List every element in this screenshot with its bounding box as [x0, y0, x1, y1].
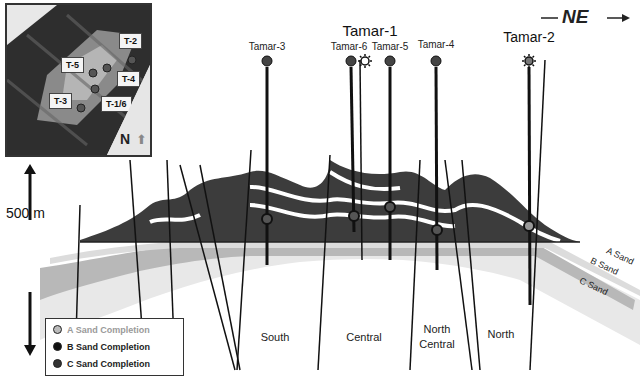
inset-tag-t3: T-3 — [49, 93, 72, 109]
well-label-tamar-6: Tamar-6 — [331, 41, 368, 52]
tamar-cross-section-diagram: T-2 T-5 T-4 T-3 T-1/6 N ⬆ NE Tamar-1 Tam… — [0, 0, 643, 380]
tamar-5-dot-icon — [385, 56, 395, 66]
zone-label-north-central: North Central — [419, 322, 454, 352]
scale-bar-icon — [24, 164, 36, 356]
well-label-tamar-2: Tamar-2 — [503, 29, 554, 45]
well-label-tamar-3: Tamar-3 — [249, 41, 286, 52]
zone-label-south: South — [261, 330, 290, 345]
inset-tag-t5: T-5 — [61, 57, 84, 73]
zone-label-north-central-line1: North — [419, 322, 454, 337]
well-label-tamar-5: Tamar-5 — [372, 41, 409, 52]
a-sand-completion-icon — [53, 325, 62, 334]
inset-tag-t4: T-4 — [117, 71, 140, 87]
tamar-2-gas-icon — [522, 54, 536, 68]
legend-item-b-sand: B Sand Completion — [46, 338, 183, 355]
tamar-4-dot-icon — [431, 56, 441, 66]
zone-label-north-central-line2: Central — [419, 337, 454, 352]
tamar-6-dot-icon — [346, 56, 356, 66]
legend-label: C Sand Completion — [67, 359, 150, 369]
legend: A Sand Completion B Sand Completion C Sa… — [45, 318, 184, 376]
tamar-1-group-label: Tamar-1 — [342, 22, 397, 39]
inset-location-map: T-2 T-5 T-4 T-3 T-1/6 N ⬆ — [5, 3, 152, 157]
scale-label: 500 m — [6, 205, 45, 221]
well-heads — [262, 54, 536, 68]
legend-item-c-sand: C Sand Completion — [46, 355, 183, 372]
legend-label: A Sand Completion — [67, 325, 150, 335]
c-sand-completion-icon — [53, 359, 62, 368]
well-label-tamar-4: Tamar-4 — [418, 39, 455, 50]
direction-label: NE — [562, 6, 588, 28]
inset-tag-t1-6: T-1/6 — [101, 96, 132, 112]
zone-label-north: North — [488, 327, 515, 342]
north-arrow-icon: ⬆ — [136, 132, 147, 147]
b-sand-completion-icon — [53, 342, 62, 351]
north-label: N — [120, 131, 130, 147]
tamar-3-dot-icon — [262, 56, 272, 66]
legend-label: B Sand Completion — [67, 342, 150, 352]
zone-label-central: Central — [346, 330, 381, 345]
inset-tag-t2: T-2 — [119, 33, 142, 49]
legend-item-a-sand: A Sand Completion — [46, 319, 183, 338]
